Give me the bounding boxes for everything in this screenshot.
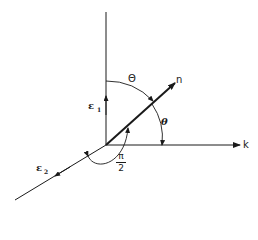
epsilon1-subscript: 1 — [97, 106, 101, 113]
pi-over-2-label: π 2 — [114, 152, 128, 173]
epsilon2-arrow — [55, 167, 70, 176]
epsilon2-subscript: 2 — [44, 168, 48, 175]
Theta-label: Θ — [128, 74, 136, 84]
n-label: n — [176, 75, 182, 85]
epsilon1-symbol: ε — [88, 100, 94, 111]
pi-numerator: π — [114, 152, 128, 162]
k-label: k — [243, 140, 249, 150]
epsilon2-symbol: ε — [36, 162, 42, 173]
theta-label: θ — [161, 117, 168, 127]
two-denominator: 2 — [114, 163, 128, 173]
epsilon2-label: ε2 — [36, 163, 48, 175]
epsilon1-label: ε1 — [88, 101, 101, 113]
n-vector — [106, 83, 175, 145]
